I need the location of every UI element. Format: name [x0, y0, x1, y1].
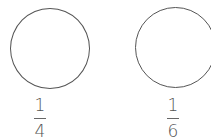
fraction-one-quarter: 1 4	[28, 97, 52, 137]
denominator: 6	[161, 123, 185, 137]
fraction-one-sixth: 1 6	[161, 97, 185, 137]
numerator: 1	[28, 97, 52, 114]
fraction-bar	[167, 118, 179, 119]
circle-one-quarter	[10, 8, 90, 89]
fraction-bar	[34, 118, 46, 119]
numerator: 1	[161, 97, 185, 114]
denominator: 4	[28, 123, 52, 137]
circle-one-sixth	[135, 7, 211, 88]
